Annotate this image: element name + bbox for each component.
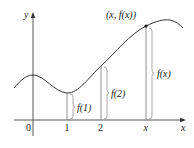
label-f1: f(1): [77, 102, 92, 114]
y-axis-label: y: [23, 9, 29, 20]
point-label: (x, f(x)): [106, 9, 137, 21]
tick-label-2: 2: [98, 122, 103, 133]
label-fx: f(x): [157, 68, 172, 80]
brace-f2: [104, 67, 109, 119]
origin-label: 0: [26, 122, 31, 133]
brace-fx: [149, 28, 154, 119]
y-axis-arrow-icon: [31, 12, 35, 18]
label-f2: f(2): [111, 88, 126, 100]
function-curve: [14, 20, 183, 93]
point-x-fx: [144, 24, 147, 27]
function-graph: y x 0 1 2 x (x, f(x)) f(1) f(2) f(x): [0, 0, 194, 148]
x-axis-label: x: [180, 122, 186, 133]
tick-label-x: x: [143, 122, 149, 133]
brace-f1: [70, 94, 75, 119]
tick-label-1: 1: [65, 122, 70, 133]
